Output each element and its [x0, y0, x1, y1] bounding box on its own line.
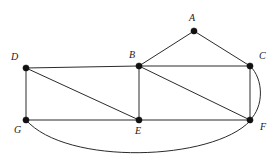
edges-group — [26, 31, 261, 153]
vertex-label-a: A — [189, 13, 195, 23]
vertex-c — [247, 63, 253, 69]
edge-d-b — [26, 66, 139, 68]
vertex-d — [23, 65, 29, 71]
vertex-e — [136, 117, 142, 123]
edge-b-f — [139, 66, 250, 120]
edge-d-e — [26, 68, 139, 120]
vertex-label-c: C — [259, 51, 266, 61]
edge-a-c — [194, 31, 250, 66]
vertex-b — [136, 63, 142, 69]
vertex-label-b: B — [129, 50, 135, 60]
vertex-label-f: F — [260, 122, 266, 132]
graph-canvas — [0, 0, 277, 165]
graph-diagram: ABCDEFG — [0, 0, 277, 165]
edge-c-f-curve — [250, 66, 261, 120]
edge-a-b — [139, 31, 194, 66]
vertex-g — [23, 117, 29, 123]
vertex-f — [247, 117, 253, 123]
vertex-label-g: G — [14, 125, 21, 135]
vertex-a — [191, 28, 197, 34]
vertices-group — [23, 28, 253, 123]
vertex-label-e: E — [135, 126, 141, 136]
vertex-label-d: D — [11, 52, 18, 62]
